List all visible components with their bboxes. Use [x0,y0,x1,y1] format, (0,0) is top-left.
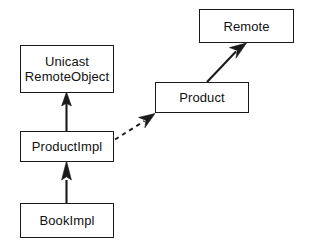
arrowhead-filled [139,114,155,128]
class-box-book-impl[interactable]: BookImpl [20,203,114,238]
class-name-label: Product [179,90,225,105]
class-name-label: Remote [223,19,269,34]
uml-class-diagram: Remote Unicast RemoteObject Product Prod… [0,0,311,248]
class-name-label-line1: Unicast [45,54,89,69]
edge-product-impl-implements-product [115,114,155,140]
edge-product-extends-remote [207,43,247,82]
arrowhead-filled [230,43,247,58]
class-box-remote[interactable]: Remote [199,9,294,43]
edge-product-impl-extends-unicast [62,92,72,131]
class-name-label-line2: RemoteObject [25,69,109,84]
class-box-product-impl[interactable]: ProductImpl [20,131,114,162]
edge-line-dashed [115,121,145,140]
edge-line [207,52,236,83]
class-box-unicast-remote-object[interactable]: Unicast RemoteObject [20,45,114,93]
class-name-label: BookImpl [40,213,95,228]
edge-book-impl-extends-product-impl [62,161,72,203]
class-name-label: ProductImpl [32,139,102,154]
class-box-product[interactable]: Product [155,82,249,113]
arrowhead-filled [62,92,72,106]
arrowhead-filled [62,161,72,180]
